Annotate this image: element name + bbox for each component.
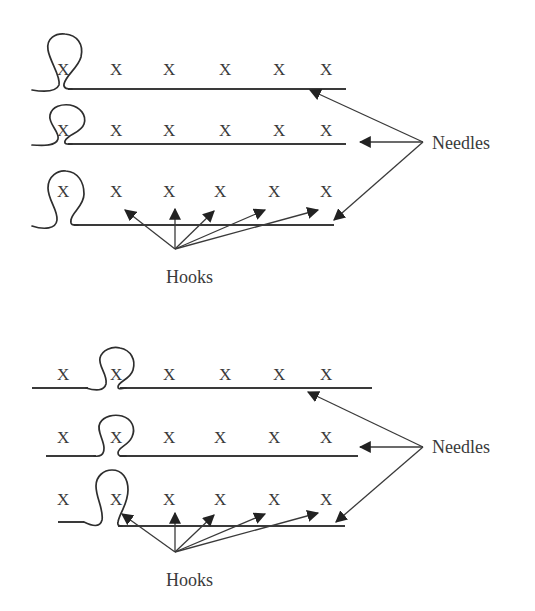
- stitch-mark: X: [320, 490, 332, 509]
- stitch-mark: X: [110, 365, 122, 384]
- stitch-mark: X: [219, 60, 231, 79]
- stitch-mark: X: [110, 182, 122, 201]
- stitch-mark: X: [268, 428, 280, 447]
- stitch-mark: X: [320, 365, 332, 384]
- stitch-mark: X: [214, 428, 226, 447]
- needle-row-1: X X X X X X: [32, 347, 372, 389]
- knitting-diagram: X X X X X X X X X X X X X X X X X X: [0, 0, 535, 611]
- needles-label: Needles: [432, 437, 490, 457]
- hooks-label: Hooks: [166, 570, 213, 590]
- stitch-mark: X: [320, 121, 332, 140]
- stitch-mark: X: [110, 60, 122, 79]
- stitch-mark: X: [273, 60, 285, 79]
- diagram-canvas: X X X X X X X X X X X X X X X X X X: [0, 0, 535, 611]
- hooks-pointer-arrows: [125, 209, 318, 249]
- stitch-mark: X: [320, 60, 332, 79]
- stitch-mark: X: [320, 428, 332, 447]
- stitch-mark: X: [219, 365, 231, 384]
- stitch-mark: X: [219, 121, 231, 140]
- stitch-mark: X: [163, 490, 175, 509]
- stitch-mark: X: [163, 60, 175, 79]
- stitch-mark: X: [57, 121, 69, 140]
- stitch-mark: X: [163, 428, 175, 447]
- stitch-mark: X: [110, 490, 122, 509]
- hooks-pointer-arrows: [122, 513, 318, 552]
- stitch-mark: X: [110, 121, 122, 140]
- stitch-mark: X: [57, 490, 69, 509]
- needles-label: Needles: [432, 133, 490, 153]
- stitch-mark: X: [320, 182, 332, 201]
- stitch-mark: X: [163, 182, 175, 201]
- stitch-mark: X: [57, 365, 69, 384]
- stitch-mark: X: [110, 428, 122, 447]
- top-panel: X X X X X X X X X X X X X X X X X X: [32, 34, 490, 287]
- hooks-label: Hooks: [166, 267, 213, 287]
- stitch-mark: X: [57, 182, 69, 201]
- stitch-mark: X: [273, 121, 285, 140]
- stitch-mark: X: [214, 182, 226, 201]
- stitch-mark: X: [57, 428, 69, 447]
- needle-row-3: X X X X X X: [32, 171, 334, 228]
- stitch-mark: X: [268, 490, 280, 509]
- needle-row-2: X X X X X X: [46, 415, 358, 456]
- stitch-mark: X: [268, 182, 280, 201]
- needle-row-1: X X X X X X: [32, 34, 346, 91]
- stitch-mark: X: [273, 365, 285, 384]
- bottom-panel: X X X X X X X X X X X X X X X X: [32, 347, 490, 590]
- needle-row-2: X X X X X X: [32, 105, 346, 146]
- stitch-mark: X: [214, 490, 226, 509]
- stitch-mark: X: [57, 60, 69, 79]
- stitch-mark: X: [163, 121, 175, 140]
- stitch-mark: X: [163, 365, 175, 384]
